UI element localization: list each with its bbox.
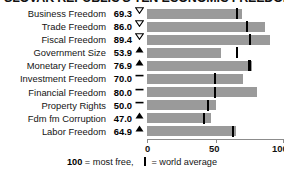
freedom-label: Fiscal Freedom (0, 33, 106, 46)
bar-plot (147, 74, 284, 84)
trend-up-icon (134, 125, 145, 132)
freedom-score: 47.0 (107, 112, 132, 125)
freedom-score: 70.0 (107, 72, 132, 85)
freedom-score: 80.0 (107, 86, 132, 99)
world-average-tick (232, 126, 234, 137)
freedom-label: Labor Freedom (0, 125, 106, 138)
world-average-tick (214, 73, 216, 84)
axis-tick-50 (216, 139, 217, 143)
freedom-label: Property Rights (0, 99, 106, 112)
trend-up-icon (134, 59, 145, 66)
x-axis-labels: 0 50 100 (147, 143, 284, 155)
bar-plot (147, 9, 284, 19)
freedom-score: 76.9 (107, 59, 132, 72)
trend-flat-icon (134, 99, 145, 106)
world-average-tick (207, 100, 209, 111)
bar-plot (147, 126, 284, 136)
table-row: Monetary Freedom 76.9 (0, 59, 284, 72)
bar-plot (147, 100, 284, 110)
freedom-score: 89.4 (107, 33, 132, 46)
freedom-label: Government Size (0, 46, 106, 59)
world-average-tick (248, 60, 250, 71)
bar-plot (147, 22, 284, 32)
bar-plot (147, 87, 284, 97)
trend-up-icon (134, 46, 145, 53)
world-average-tick-icon (144, 157, 146, 166)
bar-plot (147, 113, 284, 123)
axis-label-50: 50 (209, 143, 219, 154)
freedom-label: Business Freedom (0, 7, 106, 20)
trend-flat-icon (134, 72, 145, 79)
table-row: Government Size 53.9 (0, 46, 284, 59)
score-bar (147, 126, 236, 136)
score-bar (147, 9, 242, 19)
table-row: Property Rights 50.0 (0, 99, 284, 112)
table-row: Trade Freedom 86.0 (0, 20, 284, 33)
axis-label-0: 0 (145, 143, 150, 154)
trend-down-icon (134, 20, 145, 27)
table-row: Business Freedom 69.3 (0, 7, 284, 20)
freedom-score: 69.3 (107, 7, 132, 20)
economic-freedoms-chart: Business Freedom 69.3 Trade Freedom 86.0… (0, 7, 284, 138)
x-axis-line (147, 139, 284, 140)
freedom-label: Financial Freedom (0, 86, 106, 99)
score-bar (147, 35, 270, 45)
score-bar (147, 87, 257, 97)
legend-score-text: = most free, (82, 157, 133, 167)
world-average-tick (236, 47, 238, 58)
axis-label-100: 100 (272, 143, 284, 154)
score-bar (147, 74, 243, 84)
freedom-label: Monetary Freedom (0, 59, 106, 72)
world-average-tick (249, 34, 251, 45)
trend-down-icon (134, 7, 145, 14)
bar-plot (147, 35, 284, 45)
score-bar (147, 48, 221, 58)
chart-legend: 100 = most free, = world average (0, 157, 284, 167)
trend-flat-icon (134, 86, 145, 93)
table-row: Labor Freedom 64.9 (0, 125, 284, 138)
table-row: Financial Freedom 80.0 (0, 86, 284, 99)
world-average-tick (246, 21, 248, 32)
freedom-score: 50.0 (107, 99, 132, 112)
axis-tick-0 (147, 139, 148, 143)
legend-average-text: = world average (149, 157, 217, 167)
table-row: Investment Freedom 70.0 (0, 72, 284, 85)
score-bar (147, 100, 216, 110)
world-average-tick (214, 87, 216, 98)
freedom-score: 86.0 (107, 20, 132, 33)
freedom-score: 53.9 (107, 46, 132, 59)
chart-title-cropped: SLOVAK REPUBLIC'S TEN ECONOMIC FREEDOMS (0, 0, 284, 5)
bar-plot (147, 61, 284, 71)
score-bar (147, 61, 252, 71)
freedom-label: Trade Freedom (0, 20, 106, 33)
bar-plot (147, 48, 284, 58)
world-average-tick (203, 113, 205, 124)
world-average-tick (236, 8, 238, 19)
page-title: SLOVAK REPUBLIC'S TEN ECONOMIC FREEDOMS (4, 0, 284, 5)
trend-up-icon (134, 112, 145, 119)
freedom-label: Fdm fm Corruption (0, 112, 106, 125)
table-row: Fdm fm Corruption 47.0 (0, 112, 284, 125)
axis-tick-100 (283, 139, 284, 143)
freedom-score: 64.9 (107, 125, 132, 138)
legend-score-value: 100 (67, 157, 82, 167)
trend-down-icon (134, 33, 145, 40)
freedom-label: Investment Freedom (0, 72, 106, 85)
table-row: Fiscal Freedom 89.4 (0, 33, 284, 46)
